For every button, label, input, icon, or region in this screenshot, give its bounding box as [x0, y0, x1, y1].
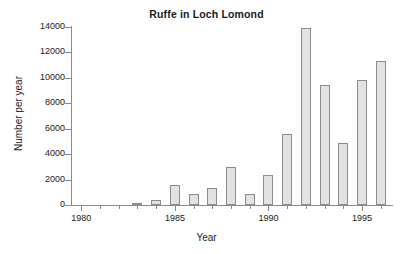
y-axis-tick-label: 6000 [20, 124, 65, 133]
y-axis-tick-label: 4000 [20, 149, 65, 158]
y-axis-tick-label: 10000 [20, 73, 65, 82]
y-axis-tick-label: 14000 [20, 22, 65, 31]
x-axis-major-tick [362, 206, 363, 211]
x-axis-minor-tick [306, 206, 307, 209]
bar [338, 143, 348, 205]
x-axis-major-tick [268, 206, 269, 211]
bar [282, 134, 292, 205]
x-axis-tick-label: 1985 [155, 213, 195, 223]
x-axis-minor-tick [287, 206, 288, 209]
chart-figure: Ruffe in Loch Lomond 0200040006000800010… [0, 0, 413, 254]
bar [376, 61, 386, 205]
y-axis-tick [65, 205, 71, 206]
x-axis-major-tick [81, 206, 82, 211]
x-axis-tick-label: 1980 [61, 213, 101, 223]
x-axis-minor-tick [156, 206, 157, 209]
y-axis-tick-label-text: 6000 [27, 124, 65, 133]
y-axis-tick-label: 8000 [20, 98, 65, 107]
chart-title: Ruffe in Loch Lomond [0, 8, 413, 20]
y-axis-tick [65, 154, 71, 155]
y-axis-tick-label-text: 10000 [27, 73, 65, 82]
y-axis-tick-label-text: 14000 [27, 22, 65, 31]
y-axis-tick-label: 2000 [20, 175, 65, 184]
x-axis-minor-tick [381, 206, 382, 209]
y-axis-tick-label-text: 4000 [27, 149, 65, 158]
y-axis-tick-label-text: 2000 [27, 175, 65, 184]
bar-series [72, 27, 392, 205]
x-axis-minor-tick [212, 206, 213, 209]
bar [245, 194, 255, 205]
y-axis-tick-label-text: 0 [27, 200, 65, 209]
bar [320, 85, 330, 205]
x-axis-minor-tick [231, 206, 232, 209]
y-axis-tick [65, 103, 71, 104]
x-axis-minor-tick [119, 206, 120, 209]
x-axis-major-tick [175, 206, 176, 211]
bar [189, 194, 199, 205]
y-axis-tick [65, 52, 71, 53]
x-axis-title: Year [0, 232, 413, 243]
x-axis-minor-tick [100, 206, 101, 209]
bar [151, 200, 161, 205]
x-axis-minor-tick [137, 206, 138, 209]
y-axis-tick [65, 180, 71, 181]
bar [170, 185, 180, 205]
y-axis-tick-label-text: 12000 [27, 47, 65, 56]
y-axis-tick [65, 129, 71, 130]
x-axis-tick-label: 1990 [248, 213, 288, 223]
bar [207, 188, 217, 205]
y-axis-tick-label: 0 [20, 200, 65, 209]
bar [132, 203, 142, 205]
bar [226, 167, 236, 205]
x-axis-minor-tick [250, 206, 251, 209]
x-axis-minor-tick [325, 206, 326, 209]
x-axis-minor-tick [343, 206, 344, 209]
y-axis-tick [65, 27, 71, 28]
bar [301, 28, 311, 205]
x-axis-tick-label: 1995 [342, 213, 382, 223]
y-axis-title: Number per year [13, 49, 24, 179]
bar [357, 80, 367, 205]
y-axis-tick [65, 78, 71, 79]
x-axis-minor-tick [194, 206, 195, 209]
bar [263, 175, 273, 205]
y-axis-tick-label: 12000 [20, 47, 65, 56]
y-axis-tick-label-text: 8000 [27, 98, 65, 107]
